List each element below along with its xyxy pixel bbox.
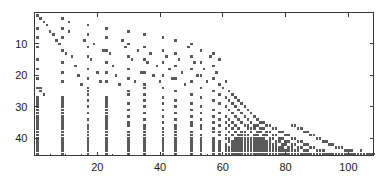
data-marker xyxy=(61,140,64,143)
data-marker xyxy=(265,140,268,143)
x-tick-label: 100 xyxy=(339,161,357,173)
data-marker xyxy=(36,87,39,90)
data-marker xyxy=(240,121,243,124)
data-marker xyxy=(143,127,146,130)
data-marker xyxy=(247,146,250,149)
data-marker xyxy=(360,149,363,152)
data-marker xyxy=(61,61,64,64)
data-marker xyxy=(256,137,259,140)
data-marker xyxy=(344,149,347,152)
data-marker xyxy=(77,74,80,77)
data-marker xyxy=(61,115,64,118)
data-marker xyxy=(231,149,234,152)
data-marker xyxy=(168,68,171,71)
data-marker xyxy=(61,96,64,99)
data-marker xyxy=(87,146,90,149)
data-marker xyxy=(143,58,146,61)
data-marker xyxy=(338,153,341,156)
data-marker xyxy=(61,109,64,112)
data-marker xyxy=(36,46,39,49)
data-marker xyxy=(102,49,105,52)
data-marker xyxy=(237,140,240,143)
data-marker xyxy=(36,118,39,121)
data-marker xyxy=(294,137,297,140)
data-marker xyxy=(105,27,108,30)
data-marker xyxy=(244,131,247,134)
data-marker xyxy=(39,87,42,90)
data-marker xyxy=(46,24,49,27)
data-marker xyxy=(297,146,300,149)
data-marker xyxy=(43,21,46,24)
data-marker xyxy=(234,115,237,118)
data-marker xyxy=(218,112,221,115)
data-marker xyxy=(328,143,331,146)
data-marker xyxy=(162,153,165,156)
data-marker xyxy=(127,131,130,134)
data-marker xyxy=(124,46,127,49)
data-marker xyxy=(143,112,146,115)
data-marker xyxy=(61,49,64,52)
data-marker xyxy=(55,39,58,42)
data-marker xyxy=(228,131,231,134)
data-marker xyxy=(127,55,130,58)
data-marker xyxy=(87,134,90,137)
data-marker xyxy=(159,80,162,83)
data-marker xyxy=(291,153,294,156)
data-marker xyxy=(275,146,278,149)
data-marker xyxy=(253,115,256,118)
data-marker xyxy=(36,124,39,127)
data-marker xyxy=(231,153,234,156)
data-marker xyxy=(174,134,177,137)
data-marker xyxy=(174,90,177,93)
data-marker xyxy=(162,74,165,77)
data-marker xyxy=(253,137,256,140)
data-marker xyxy=(162,61,165,64)
data-marker xyxy=(275,140,278,143)
data-marker xyxy=(259,143,262,146)
data-marker xyxy=(259,137,262,140)
data-marker xyxy=(36,146,39,149)
data-marker xyxy=(190,124,193,127)
data-marker xyxy=(87,46,90,49)
data-marker xyxy=(225,96,228,99)
data-marker xyxy=(222,87,225,90)
data-marker xyxy=(127,77,130,80)
data-marker xyxy=(105,115,108,118)
data-marker xyxy=(262,153,265,156)
data-marker xyxy=(212,127,215,130)
data-marker xyxy=(65,52,68,55)
data-marker xyxy=(353,153,356,156)
data-marker xyxy=(187,46,190,49)
data-marker xyxy=(228,153,231,156)
data-marker xyxy=(244,140,247,143)
data-marker xyxy=(234,105,237,108)
data-marker xyxy=(250,131,253,134)
data-marker xyxy=(200,105,203,108)
data-marker xyxy=(244,146,247,149)
data-marker xyxy=(287,134,290,137)
data-marker xyxy=(244,153,247,156)
data-marker xyxy=(143,124,146,127)
data-marker xyxy=(87,131,90,134)
data-marker xyxy=(36,112,39,115)
data-marker xyxy=(190,131,193,134)
data-marker xyxy=(174,99,177,102)
data-marker xyxy=(36,143,39,146)
data-marker xyxy=(250,146,253,149)
data-marker xyxy=(259,153,262,156)
data-marker xyxy=(127,121,130,124)
data-marker xyxy=(127,134,130,137)
data-marker xyxy=(200,87,203,90)
data-marker xyxy=(247,118,250,121)
data-marker xyxy=(200,118,203,121)
data-marker xyxy=(143,99,146,102)
data-marker xyxy=(87,93,90,96)
data-marker xyxy=(96,71,99,74)
data-marker xyxy=(265,149,268,152)
data-marker xyxy=(225,149,228,152)
data-marker xyxy=(250,121,253,124)
data-marker xyxy=(87,33,90,36)
data-marker xyxy=(87,105,90,108)
data-marker xyxy=(237,146,240,149)
data-marker xyxy=(319,137,322,140)
